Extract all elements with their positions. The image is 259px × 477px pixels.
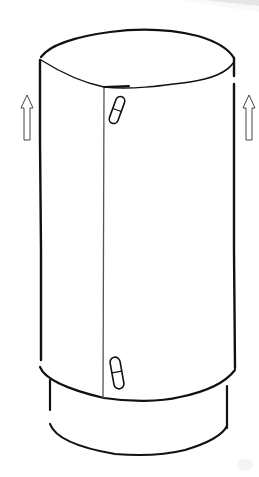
up-arrow-left-icon — [21, 95, 33, 140]
page-curl-faint — [180, 0, 259, 12]
latch-bottom-icon — [109, 356, 124, 389]
up-arrow-right-icon — [243, 95, 255, 140]
faint-smudge — [237, 459, 253, 471]
cylinder-body — [40, 58, 235, 401]
latch-top-icon — [108, 95, 126, 124]
top-lid — [41, 30, 234, 88]
seam-line — [103, 88, 104, 398]
cylinder-diagram — [0, 0, 259, 477]
